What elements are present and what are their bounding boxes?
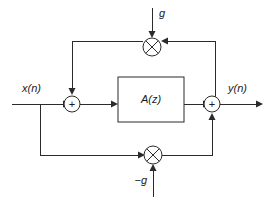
adder-left[interactable]: +	[64, 96, 80, 112]
gain-bottom-label: −g	[134, 174, 147, 186]
block-diagram-canvas: + + A(z) x(n) y(n) g −g	[0, 0, 276, 205]
wire-neg-g-into-bottom-multiplier	[150, 164, 157, 197]
adder-right[interactable]: +	[204, 96, 220, 112]
adder-right-symbol: +	[209, 98, 215, 110]
adder-left-symbol: +	[69, 98, 75, 110]
wire-g-into-top-multiplier	[149, 8, 156, 38]
output-signal-label: y(n)	[227, 82, 247, 94]
input-signal-label: x(n)	[21, 82, 41, 94]
wire-right-adder-to-output	[220, 101, 263, 108]
multiplier-top[interactable]	[143, 38, 161, 56]
block-diagram-svg: + + A(z) x(n) y(n) g −g	[0, 0, 276, 205]
wire-left-adder-to-filter	[80, 101, 118, 108]
gain-top-label: g	[159, 7, 166, 19]
filter-block-a-z[interactable]: A(z)	[118, 77, 184, 122]
filter-block-label: A(z)	[140, 93, 162, 105]
multiplier-bottom[interactable]	[144, 146, 162, 164]
wire-input-to-left-adder	[12, 101, 70, 108]
